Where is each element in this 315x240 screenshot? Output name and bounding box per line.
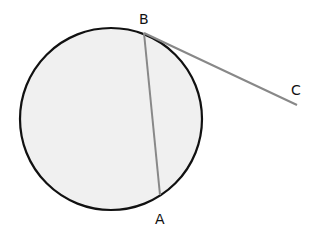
label-a: A — [155, 211, 165, 227]
label-b: B — [139, 11, 149, 27]
circle — [20, 28, 202, 210]
label-c: C — [291, 82, 301, 98]
diagram-canvas: B A C — [0, 0, 315, 240]
geometry-figure: B A C — [0, 0, 315, 240]
